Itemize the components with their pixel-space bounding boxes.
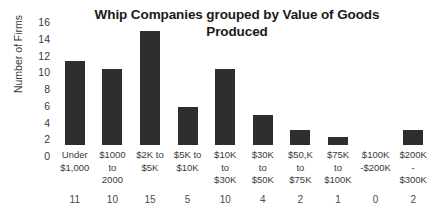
x-axis-label-line: $5K to xyxy=(169,149,207,162)
x-axis-category-labels: Under$1,000$1000to2000$2K to$5K$5K to$10… xyxy=(56,149,432,193)
x-axis-label-line: to xyxy=(282,162,320,175)
x-axis-label-line: -$200K xyxy=(357,162,395,175)
x-axis-label: $50,Kto$75K xyxy=(282,149,320,187)
bar xyxy=(178,107,198,145)
y-tick-label: 16 xyxy=(26,17,50,28)
x-axis-label-line: $2K to xyxy=(131,149,169,162)
x-axis-label: $30Kto$50K xyxy=(244,149,282,187)
value-label: 0 xyxy=(357,194,395,205)
bar-slot xyxy=(131,23,169,145)
y-tick-label: 2 xyxy=(26,134,50,145)
value-label: 2 xyxy=(282,194,320,205)
bar-slot xyxy=(206,23,244,145)
x-axis-label-line: to xyxy=(319,162,357,175)
bar-slot xyxy=(94,23,132,145)
plot-area xyxy=(56,23,432,145)
y-tick-label: 8 xyxy=(26,84,50,95)
x-axis-label-line: $100K xyxy=(357,149,395,162)
bar xyxy=(403,130,423,145)
x-axis-label-line: $1,000 xyxy=(56,162,94,175)
x-axis-label-line: to xyxy=(206,162,244,175)
x-axis-label-line: $10K xyxy=(169,162,207,175)
y-tick-label: 0 xyxy=(26,151,50,162)
y-axis-tick-labels: 1614121086420 xyxy=(26,17,50,151)
value-label: 2 xyxy=(394,194,432,205)
x-axis-label: $10Kto$30K xyxy=(206,149,244,187)
bar-slot xyxy=(169,23,207,145)
value-label: 10 xyxy=(206,194,244,205)
value-row: 11101551042102 xyxy=(56,194,432,210)
bar xyxy=(65,61,85,145)
chart-title-line-1: Whip Companies grouped by Value of xyxy=(95,7,334,22)
x-axis-label: $1000to2000 xyxy=(94,149,132,187)
bar-slot xyxy=(394,23,432,145)
bar xyxy=(140,31,160,145)
x-axis-label: Under$1,000 xyxy=(56,149,94,174)
y-tick-label: 14 xyxy=(26,34,50,45)
bar-slot xyxy=(244,23,282,145)
bar xyxy=(102,69,122,145)
bar xyxy=(253,115,273,146)
bar-chart: Whip Companies grouped by Value of Goods… xyxy=(0,0,437,222)
value-label: 11 xyxy=(56,194,94,205)
y-tick-label: 12 xyxy=(26,51,50,62)
value-label: 4 xyxy=(244,194,282,205)
value-label: 15 xyxy=(131,194,169,205)
x-axis-label-line: $75K xyxy=(282,174,320,187)
y-tick-label: 10 xyxy=(26,67,50,78)
value-label: 10 xyxy=(94,194,132,205)
x-axis-label-line: - xyxy=(394,162,432,175)
x-axis-label-line: $300K xyxy=(394,174,432,187)
x-axis-label-line: $1000 xyxy=(94,149,132,162)
x-axis-label-line: $10K xyxy=(206,149,244,162)
x-axis-label: $5K to$10K xyxy=(169,149,207,174)
x-axis-label-line: $5K xyxy=(131,162,169,175)
bar xyxy=(328,137,348,145)
x-axis-label: $100K-$200K xyxy=(357,149,395,174)
x-axis-label-line: $75K xyxy=(319,149,357,162)
x-axis-label-line: 2000 xyxy=(94,174,132,187)
bar-slot xyxy=(56,23,94,145)
x-axis-label-line: $200K xyxy=(394,149,432,162)
y-axis-title: Number of Firms xyxy=(12,4,24,104)
bar-slot xyxy=(282,23,320,145)
bar xyxy=(215,69,235,145)
x-axis-label-line: to xyxy=(244,162,282,175)
x-axis-label: $2K to$5K xyxy=(131,149,169,174)
value-label: 1 xyxy=(319,194,357,205)
bar-slot xyxy=(357,23,395,145)
x-axis-label-line: $100K xyxy=(319,174,357,187)
x-axis-label-line: Under xyxy=(56,149,94,162)
y-tick-label: 4 xyxy=(26,118,50,129)
x-axis-label-line: to xyxy=(94,162,132,175)
y-tick-label: 6 xyxy=(26,101,50,112)
x-axis-label-line: $50,K xyxy=(282,149,320,162)
x-axis-label: $200K-$300K xyxy=(394,149,432,187)
x-axis-label-line: $30K xyxy=(244,149,282,162)
x-axis-label-line: $30K xyxy=(206,174,244,187)
value-label: 5 xyxy=(169,194,207,205)
bar-slot xyxy=(319,23,357,145)
x-axis-label-line: $50K xyxy=(244,174,282,187)
x-axis-label: $75Kto$100K xyxy=(319,149,357,187)
bar xyxy=(290,130,310,145)
